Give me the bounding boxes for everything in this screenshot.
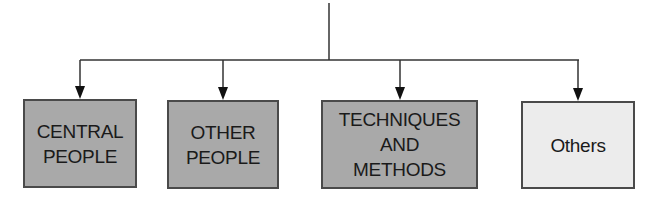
node-other-people: OTHER PEOPLE [167,100,279,189]
arrowhead-icon [218,87,228,100]
node-techniques-and-methods: TECHNIQUES AND METHODS [321,100,478,189]
node-label: TECHNIQUES AND METHODS [339,107,461,182]
node-label: Others [550,133,605,158]
node-central-people: CENTRAL PEOPLE [23,99,137,188]
arrowhead-icon [573,88,583,101]
node-label: CENTRAL PEOPLE [37,119,124,169]
node-others: Others [521,101,635,189]
arrowhead-icon [395,87,405,100]
node-label: OTHER PEOPLE [186,120,260,170]
arrowhead-icon [75,86,85,99]
